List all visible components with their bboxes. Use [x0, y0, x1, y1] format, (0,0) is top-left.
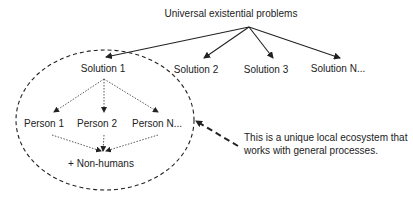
problem-to-solution-arrows	[106, 27, 340, 58]
solution-2-label: Solution 2	[174, 64, 218, 76]
solution-1-label: Solution 1	[81, 63, 125, 75]
annotation-pointer-arrow	[196, 121, 238, 146]
person-to-nonhuman-arrows	[52, 135, 158, 151]
diagram-connectors	[0, 0, 413, 199]
solution-to-person-arrows	[54, 79, 158, 112]
person-n-label: Person N...	[132, 118, 182, 130]
ecosystem-annotation: This is a unique local ecosystem that wo…	[244, 131, 413, 157]
non-humans-label: + Non-humans	[68, 158, 134, 170]
ecosystem-diagram: Universal existential problems Solution …	[0, 0, 413, 199]
solution-n-label: Solution N...	[311, 63, 365, 75]
person-2-label: Person 2	[77, 118, 117, 130]
title-universal-problems: Universal existential problems	[165, 8, 298, 20]
person-1-label: Person 1	[24, 118, 64, 130]
solution-3-label: Solution 3	[244, 64, 288, 76]
